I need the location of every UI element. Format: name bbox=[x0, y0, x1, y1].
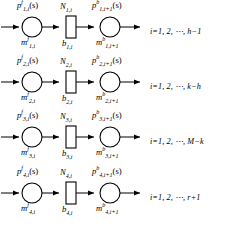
marking-output-label: mb3,i+1 bbox=[96, 148, 118, 157]
transition-label: N2,i bbox=[60, 57, 72, 66]
marking-output-label: mb2,i+1 bbox=[96, 93, 118, 102]
place-input bbox=[22, 183, 42, 203]
transition-bar bbox=[66, 16, 76, 38]
marking-input-label: mf2,i bbox=[21, 93, 35, 102]
capacity-label: b2,i bbox=[62, 94, 72, 103]
capacity-label: b4,i bbox=[62, 205, 72, 214]
place-output-label: pb2,i+1(s) bbox=[92, 56, 122, 65]
petri-net-diagram: pf1,i(s) N1,i pb1,i+1(s) mf1,i b1,i mb1,… bbox=[0, 0, 225, 239]
petri-net-row: pf4,i(s) N4,i pb4,i+1(s) mf4,i b4,i mb4,… bbox=[0, 166, 225, 221]
place-output bbox=[100, 127, 120, 147]
place-output bbox=[100, 183, 120, 203]
transition-label: N1,i bbox=[60, 2, 72, 11]
petri-net-row: pf2,i(s) N2,i pb2,i+1(s) mf2,i b2,i mb2,… bbox=[0, 55, 225, 110]
marking-input-label: mf3,i bbox=[21, 148, 35, 157]
place-input-label: pf3,i(s) bbox=[17, 111, 38, 120]
marking-input-label: mf4,i bbox=[21, 204, 35, 213]
index-range-label: i=1, 2, ⋯, r+1 bbox=[150, 192, 200, 202]
place-input-label: pf2,i(s) bbox=[17, 56, 38, 65]
place-input bbox=[22, 127, 42, 147]
place-output-label: pb1,i+1(s) bbox=[92, 1, 122, 10]
capacity-label: b3,i bbox=[62, 149, 72, 158]
place-input bbox=[22, 72, 42, 92]
place-output-label: pb3,i+1(s) bbox=[92, 111, 122, 120]
place-output-label: pb4,i+1(s) bbox=[92, 167, 122, 176]
place-output bbox=[100, 72, 120, 92]
marking-output-label: mb1,i+1 bbox=[96, 38, 118, 47]
marking-output-label: mb4,i+1 bbox=[96, 204, 118, 213]
index-range-label: i=1, 2, ⋯, M−k bbox=[150, 136, 204, 146]
place-output bbox=[100, 17, 120, 37]
place-input-label: pf4,i(s) bbox=[17, 167, 38, 176]
marking-input-label: mf1,i bbox=[21, 38, 35, 47]
transition-label: N4,i bbox=[60, 168, 72, 177]
index-range-label: i=1, 2, ⋯, h−1 bbox=[150, 26, 201, 36]
transition-bar bbox=[66, 182, 76, 204]
index-range-label: i=1, 2, ⋯, k−h bbox=[150, 81, 201, 91]
petri-net-row: pf1,i(s) N1,i pb1,i+1(s) mf1,i b1,i mb1,… bbox=[0, 0, 225, 55]
transition-label: N3,i bbox=[60, 112, 72, 121]
transition-bar bbox=[66, 71, 76, 93]
place-input bbox=[22, 17, 42, 37]
capacity-label: b1,i bbox=[62, 39, 72, 48]
place-input-label: pf1,i(s) bbox=[17, 1, 38, 10]
transition-bar bbox=[66, 126, 76, 148]
petri-net-row: pf3,i(s) N3,i pb3,i+1(s) mf3,i b3,i mb3,… bbox=[0, 110, 225, 165]
